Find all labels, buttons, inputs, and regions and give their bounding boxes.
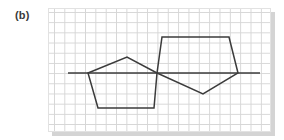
right-pentagon [157, 37, 238, 94]
geometry-diagram [0, 0, 284, 140]
left-pentagon [88, 57, 157, 108]
